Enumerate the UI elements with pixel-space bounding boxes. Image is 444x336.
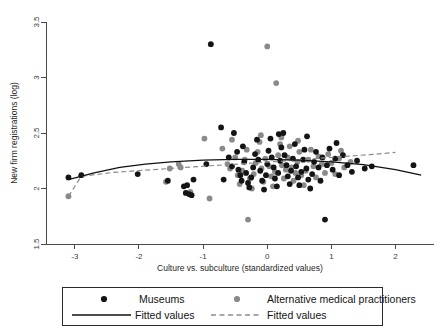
data-point [219,146,225,152]
data-point [275,152,281,158]
scatter-plot-figure: 1.522.533.5 -3-2-1012 New firm registrat… [0,0,444,336]
data-point [266,148,272,154]
data-point [245,217,251,223]
data-point [278,145,284,151]
data-point [322,217,328,223]
plot-canvas: 1.522.533.5 -3-2-1012 New firm registrat… [0,0,444,336]
data-point [275,170,281,176]
y-tick-label: 2 [32,186,41,191]
data-point [285,173,291,179]
data-point [330,167,336,173]
data-point [229,137,235,143]
data-point [248,175,254,181]
x-tick-label: -1 [200,252,208,261]
data-point [304,133,310,139]
data-point [318,178,324,184]
data-point [236,167,242,173]
y-tick-label: 3.5 [32,16,41,28]
data-point [258,132,264,138]
data-point [334,140,340,146]
data-point [237,172,243,178]
data-point [239,178,245,184]
data-point [324,162,330,168]
data-point [287,181,293,187]
data-point [327,146,333,152]
data-point [307,186,313,192]
x-tick-label: -3 [71,252,79,261]
data-point [322,170,328,176]
data-points-museums [66,41,417,222]
data-point [298,169,304,175]
data-point [302,147,308,153]
data-point [284,162,290,168]
data-points-practitioners [66,44,354,223]
data-point [354,158,360,164]
data-point [218,125,224,131]
legend-marker-practitioners [234,296,240,302]
data-point [240,143,246,149]
data-point [184,182,190,188]
data-point [234,149,240,155]
data-point [262,156,268,162]
data-point [246,184,252,190]
data-point [287,143,293,149]
data-point [296,182,302,188]
data-point [276,131,282,137]
data-point [296,149,302,155]
legend-label-museums: Museums [139,293,185,305]
data-point [362,166,368,172]
data-point [303,166,309,172]
x-tick-label: -2 [135,252,143,261]
y-tick-label: 3 [32,75,41,80]
y-tick-label: 1.5 [32,238,41,250]
legend-label-practitioners: Alternative medical practitioners [267,293,416,305]
data-point [263,172,269,178]
data-point [254,137,260,143]
data-point [257,168,263,174]
data-point [66,193,72,199]
data-point [268,136,274,142]
data-point [264,44,270,50]
data-point [349,169,355,175]
x-tick-label: 1 [329,252,334,261]
x-tick-label: 0 [265,252,270,261]
data-point [411,162,417,168]
x-axis-ticks: -3-2-1012 [71,244,398,261]
data-point [305,177,311,183]
legend: Museums Alternative medical practitioner… [62,287,416,325]
data-point [202,136,208,142]
y-axis-ticks: 1.522.533.5 [32,16,46,250]
data-point [272,176,278,182]
data-point [274,183,280,189]
data-point [325,151,331,157]
data-point [207,196,213,202]
data-point [252,151,258,157]
data-point [135,171,141,177]
data-point [231,130,237,136]
data-point [336,172,342,178]
data-point [191,177,197,183]
data-point [165,178,171,184]
x-tick-label: 2 [393,252,398,261]
data-point [261,187,267,193]
data-point [293,163,299,169]
legend-label-fitted-museums: Fitted values [135,309,195,321]
data-point [282,152,288,158]
data-point [243,170,249,176]
data-point [295,175,301,181]
y-tick-label: 2.5 [32,127,41,139]
data-point [273,80,279,86]
data-point [311,159,317,165]
legend-label-fitted-practitioners: Fitted values [267,309,327,321]
data-point [208,41,214,47]
data-point [316,165,322,171]
data-point [271,165,277,171]
data-point [221,177,227,183]
data-point [292,141,298,147]
x-axis-title: Culture vs. subculture (standardized val… [157,263,323,273]
data-point [250,165,256,171]
data-point [308,147,314,153]
data-point [189,192,195,198]
legend-marker-museums [101,296,107,302]
y-axis-title: New firm registrations (log) [9,82,19,184]
